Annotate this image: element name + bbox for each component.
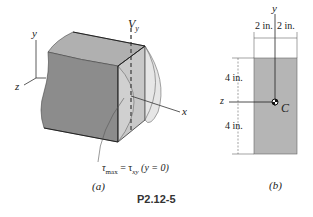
figure-caption: P2.12-5 bbox=[137, 193, 176, 205]
z-axis-label: z bbox=[15, 80, 19, 92]
centroid-label: C bbox=[281, 101, 289, 116]
section-y-axis-label: y bbox=[272, 2, 277, 14]
x-axis-label: x bbox=[182, 105, 187, 117]
cross-section-rect bbox=[254, 58, 297, 154]
stress-equation: τmax = τxy (y = 0) bbox=[102, 162, 169, 176]
dim-top-height: 4 in. bbox=[225, 72, 243, 83]
y-axis-label: y bbox=[32, 27, 37, 39]
axis-triad bbox=[24, 40, 46, 85]
beam-front-face bbox=[41, 52, 118, 142]
figure-a-sublabel: (a) bbox=[92, 180, 105, 192]
figure-b-sublabel: (b) bbox=[269, 179, 282, 191]
dim-right-width: 2 in. bbox=[277, 20, 295, 31]
shear-force-label: Vy bbox=[128, 17, 139, 33]
dim-bottom-height: 4 in. bbox=[225, 120, 243, 131]
section-z-axis-label: z bbox=[220, 95, 224, 106]
diagram-canvas bbox=[0, 0, 313, 217]
dim-left-width: 2 in. bbox=[255, 20, 273, 31]
